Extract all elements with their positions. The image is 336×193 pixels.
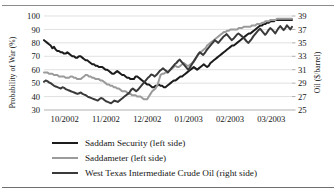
series-line-wti-crude-oil — [44, 25, 292, 103]
y-axis-right-tick-label: 33 — [298, 51, 307, 61]
legend-item-wti-crude-oil: West Texas Intermediate Crude Oil (right… — [52, 166, 336, 180]
x-axis-tick-label: 11/2002 — [92, 114, 120, 124]
legend-label-saddameter: Saddameter (left side) — [85, 152, 166, 165]
chart-legend: Saddam Security (left side) Saddameter (… — [0, 134, 336, 187]
y-axis-left-title: Probability of War (%) — [8, 30, 17, 116]
y-axis-left-tick-label: 70 — [31, 51, 40, 61]
y-axis-left-tick-label: 50 — [31, 78, 40, 88]
y-axis-right-tick-label: 25 — [298, 105, 307, 115]
y-axis-left-tick-label: 80 — [31, 38, 40, 48]
y-axis-left-tick-label: 100 — [27, 11, 40, 21]
y-axis-right-tick-label: 27 — [298, 92, 307, 102]
x-axis-tick-label: 01/2003 — [175, 114, 203, 124]
chart-plot-area: 10039903780357033603150294027302510/2002… — [0, 6, 336, 134]
bottom-divider-rule — [2, 187, 334, 188]
legend-item-saddameter: Saddameter (left side) — [52, 151, 336, 165]
figure-container: 10039903780357033603150294027302510/2002… — [0, 0, 336, 193]
series-line-saddam-security — [44, 20, 292, 87]
x-axis-tick-label: 12/2002 — [133, 114, 161, 124]
y-axis-left-tick-label: 30 — [31, 105, 40, 115]
y-axis-right-tick-label: 37 — [298, 25, 307, 35]
legend-label-wti-crude-oil: West Texas Intermediate Crude Oil (right… — [85, 167, 257, 180]
y-axis-left-tick-label: 90 — [31, 25, 40, 35]
y-axis-right-tick-label: 31 — [298, 65, 307, 75]
x-axis-tick-label: 02/2003 — [216, 114, 244, 124]
legend-line-swatch-saddam-security — [52, 142, 78, 144]
y-axis-left-tick-label: 40 — [31, 92, 40, 102]
legend-item-saddam-security: Saddam Security (left side) — [52, 136, 336, 150]
y-axis-right-title: Oil ($/barrel) — [313, 30, 322, 116]
x-axis-tick-label: 10/2002 — [51, 114, 79, 124]
legend-line-swatch-wti-crude-oil — [52, 172, 78, 174]
y-axis-right-tick-label: 39 — [298, 11, 307, 21]
y-axis-left-tick-label: 60 — [31, 65, 40, 75]
chart-svg: 10039903780357033603150294027302510/2002… — [0, 6, 336, 134]
legend-line-swatch-saddameter — [52, 157, 78, 159]
legend-label-saddam-security: Saddam Security (left side) — [85, 137, 185, 150]
y-axis-right-tick-label: 29 — [298, 78, 307, 88]
x-axis-tick-label: 03/2003 — [257, 114, 285, 124]
y-axis-right-tick-label: 35 — [298, 38, 307, 48]
